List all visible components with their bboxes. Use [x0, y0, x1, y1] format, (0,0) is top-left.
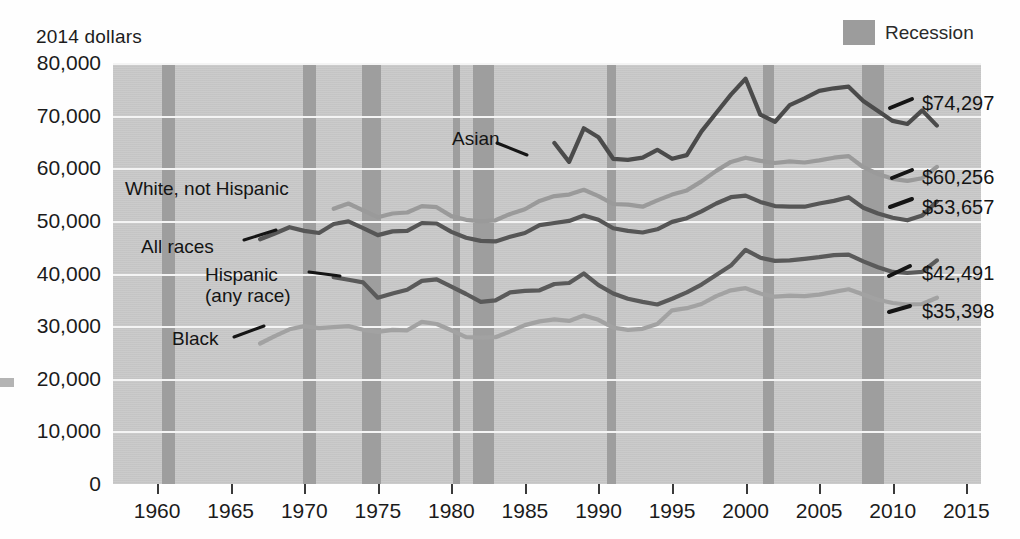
- series-line: [260, 196, 937, 242]
- end-label-pointer: [890, 99, 912, 108]
- chart-page: 2014 dollars Recession 80,00070,00060,00…: [0, 0, 1020, 539]
- leader-line: [497, 143, 527, 155]
- series-end-value-label: $74,297: [922, 92, 994, 115]
- leader-line: [234, 326, 264, 337]
- series-name-label: All races: [141, 236, 214, 257]
- page-edge-mark: [0, 378, 14, 387]
- series-end-value-label: $42,491: [922, 262, 994, 285]
- series-line: [334, 250, 937, 305]
- series-line: [260, 288, 937, 343]
- series-name-label: Black: [172, 328, 218, 349]
- series-end-value-label: $35,398: [922, 300, 994, 323]
- series-end-value-label: $53,657: [922, 196, 994, 219]
- series-name-label: White, not Hispanic: [125, 178, 289, 199]
- leader-line: [309, 272, 340, 276]
- series-lines: [0, 0, 1020, 539]
- end-label-pointer: [889, 306, 910, 312]
- series-end-value-label: $60,256: [922, 166, 994, 189]
- series-name-label: Asian: [452, 128, 500, 149]
- end-label-pointer: [892, 170, 912, 178]
- end-label-pointer: [890, 199, 912, 207]
- series-name-label: Hispanic(any race): [205, 264, 291, 307]
- series-line: [334, 156, 937, 221]
- series-line: [554, 79, 937, 162]
